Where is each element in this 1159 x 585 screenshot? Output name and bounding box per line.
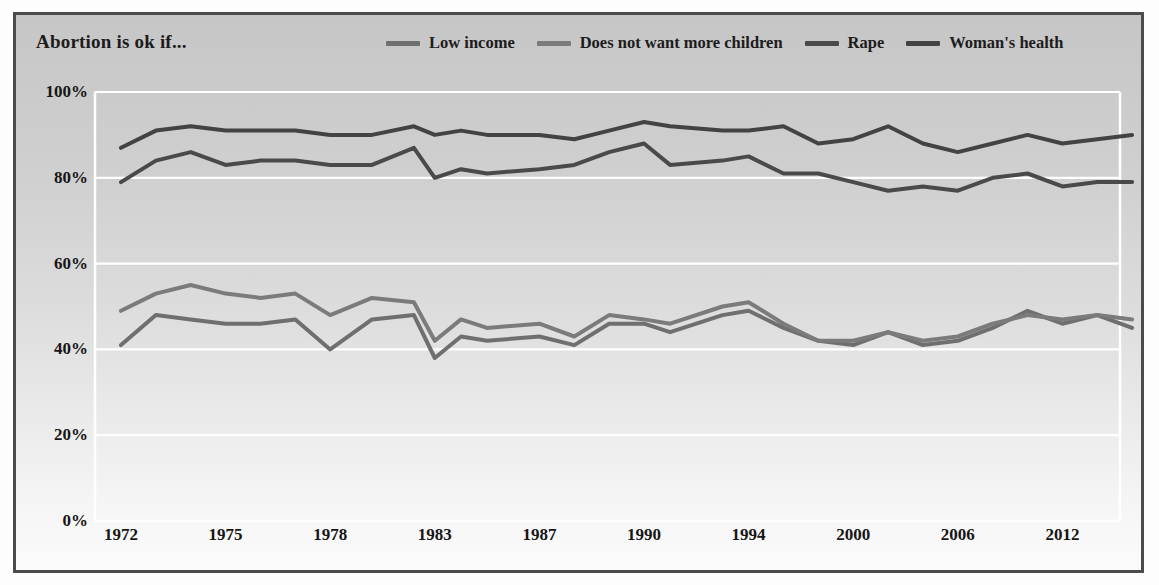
x-tick-label: 1990	[627, 525, 661, 545]
y-tick-label: 100%	[46, 82, 89, 102]
plot-svg	[16, 15, 1147, 576]
x-tick-label: 2006	[941, 525, 975, 545]
x-tick-label: 1975	[209, 525, 243, 545]
series-lines	[121, 122, 1132, 358]
series-line-rape	[121, 144, 1132, 191]
y-tick-label: 60%	[54, 254, 88, 274]
x-tick-label: 1987	[522, 525, 556, 545]
y-axis-ticks: 100%80%60%40%20%0%	[22, 15, 88, 576]
x-tick-label: 1978	[313, 525, 347, 545]
x-tick-label: 1983	[418, 525, 452, 545]
x-tick-label: 1994	[732, 525, 766, 545]
y-tick-label: 80%	[54, 168, 88, 188]
x-tick-label: 2012	[1045, 525, 1079, 545]
x-axis-ticks: 1972197519781983198719901994200020062012	[16, 525, 1147, 565]
chart-figure: Abortion is ok if... Low incomeDoes not …	[0, 0, 1159, 585]
plot-area: 100%80%60%40%20%0% 197219751978198319871…	[16, 15, 1147, 576]
y-tick-label: 40%	[54, 339, 88, 359]
x-tick-label: 1972	[104, 525, 138, 545]
x-tick-label: 2000	[836, 525, 870, 545]
chart-panel: Abortion is ok if... Low incomeDoes not …	[13, 12, 1144, 573]
gridlines	[95, 92, 1120, 521]
y-tick-label: 20%	[54, 425, 88, 445]
